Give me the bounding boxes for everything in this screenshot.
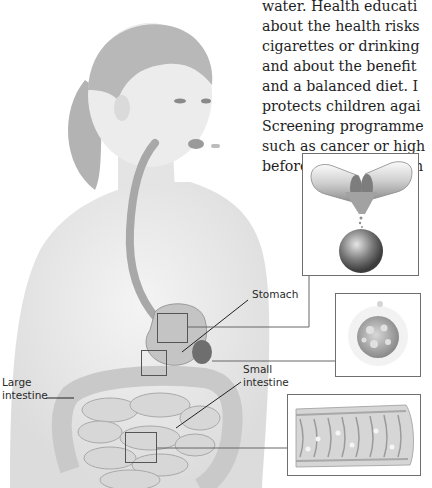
text-line: protects children agai [262,96,432,116]
stomach-label: Stomach [252,288,298,301]
large-intestine-label-line1: Large [2,376,48,389]
small-intestine-label: Small intestine [243,363,289,389]
pill-near-mouth [211,144,220,148]
large-intestine-label-line2: intestine [2,389,48,402]
pill-icon [339,229,383,273]
dissolving-particle-icon [348,301,408,366]
text-line: Screening programme [262,116,432,136]
stomach-lower-highlight-box [141,350,167,376]
large-intestine-label: Large intestine [2,376,48,402]
pylorus [192,340,212,364]
text-line: about the health risks [262,16,432,36]
intestine-wall-icon [296,405,413,467]
capsule-inset [302,153,419,276]
granules-icon [345,192,377,228]
intestine-highlight-box [125,432,157,463]
ear [114,95,130,121]
mouth [188,139,204,149]
small-intestine-label-line2: intestine [243,376,289,389]
stomach-upper-highlight-box [157,313,188,343]
eye-right [201,99,211,104]
text-line: cigarettes or drinking [262,36,432,56]
intestine-wall-inset [287,394,421,476]
small-intestine-label-line1: Small [243,363,289,376]
text-line: and about the benefit [262,56,432,76]
text-line: water. Health educati [262,0,432,16]
body-text: water. Health educati about the health r… [262,0,432,176]
text-line: and a balanced diet. I [262,76,432,96]
particle-inset [335,293,421,377]
eye-left [174,99,186,104]
